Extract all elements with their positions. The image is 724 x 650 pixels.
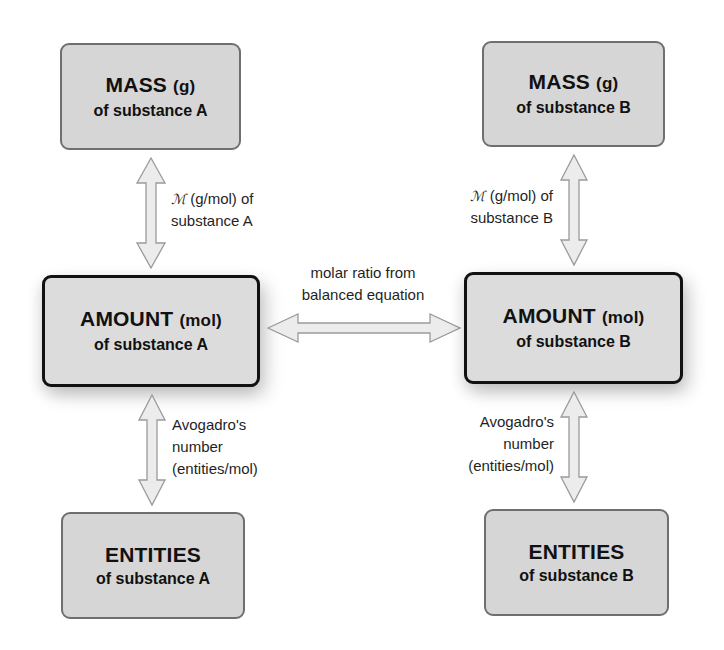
amount-a-box: AMOUNT (mol) of substance A [42,275,260,387]
double-arrow-amount-entities-a-icon [138,395,166,505]
avogadro-a-label: Avogadro's number (entities/mol) [172,414,258,480]
avogadro-a-line3: (entities/mol) [172,458,258,480]
double-arrow-amount-entities-b-icon [560,392,588,502]
molar-ratio-line1: molar ratio from [288,262,438,284]
mass-a-box: MASS (g) of substance A [60,43,241,150]
entities-a-box: ENTITIES of substance A [61,512,245,619]
molar-mass-b-label: ℳ (g/mol) of substance B [440,185,553,229]
entities-b-box: ENTITIES of substance B [484,509,669,616]
amount-a-unit: (mol) [179,311,222,330]
mass-a-subtitle: of substance A [93,100,207,122]
molar-mass-symbol-b: ℳ [470,188,485,204]
mass-b-title: MASS (g) [529,69,619,97]
molar-mass-a-line2: substance A [171,210,254,232]
amount-b-title: AMOUNT (mol) [503,303,645,331]
amount-a-subtitle: of substance A [94,334,208,356]
avogadro-b-line1: Avogadro's [430,411,554,433]
double-arrow-mass-amount-b-icon [560,155,588,265]
mass-a-title: MASS (g) [106,72,196,100]
double-arrow-molar-ratio-icon [268,313,460,343]
mass-b-subtitle: of substance B [516,97,631,119]
avogadro-a-line2: number [172,436,258,458]
mass-b-title-text: MASS [529,70,590,93]
amount-b-title-text: AMOUNT [503,304,596,327]
double-arrow-mass-amount-a-icon [136,158,166,268]
molar-mass-b-line1: (g/mol) of [485,187,553,204]
avogadro-b-line3: (entities/mol) [430,455,554,477]
entities-a-title: ENTITIES [105,542,201,568]
avogadro-a-line1: Avogadro's [172,414,258,436]
molar-mass-a-label: ℳ (g/mol) of substance A [171,188,254,232]
amount-b-box: AMOUNT (mol) of substance B [464,272,683,384]
avogadro-b-label: Avogadro's number (entities/mol) [430,411,554,477]
mass-b-unit: (g) [596,74,618,93]
molar-ratio-label: molar ratio from balanced equation [288,262,438,306]
entities-b-title: ENTITIES [528,539,624,565]
amount-b-subtitle: of substance B [516,331,631,353]
entities-a-subtitle: of substance A [96,568,210,590]
amount-a-title-text: AMOUNT [80,307,173,330]
avogadro-b-line2: number [430,433,554,455]
amount-b-unit: (mol) [602,308,645,327]
entities-b-subtitle: of substance B [519,565,634,587]
molar-ratio-line2: balanced equation [288,284,438,306]
molar-mass-symbol-a: ℳ [171,191,186,207]
mass-a-unit: (g) [173,77,195,96]
molar-mass-b-line2: substance B [440,207,553,229]
mass-a-title-text: MASS [106,73,167,96]
mass-b-box: MASS (g) of substance B [482,41,665,147]
amount-a-title: AMOUNT (mol) [80,306,222,334]
molar-mass-a-line1: (g/mol) of [186,190,254,207]
